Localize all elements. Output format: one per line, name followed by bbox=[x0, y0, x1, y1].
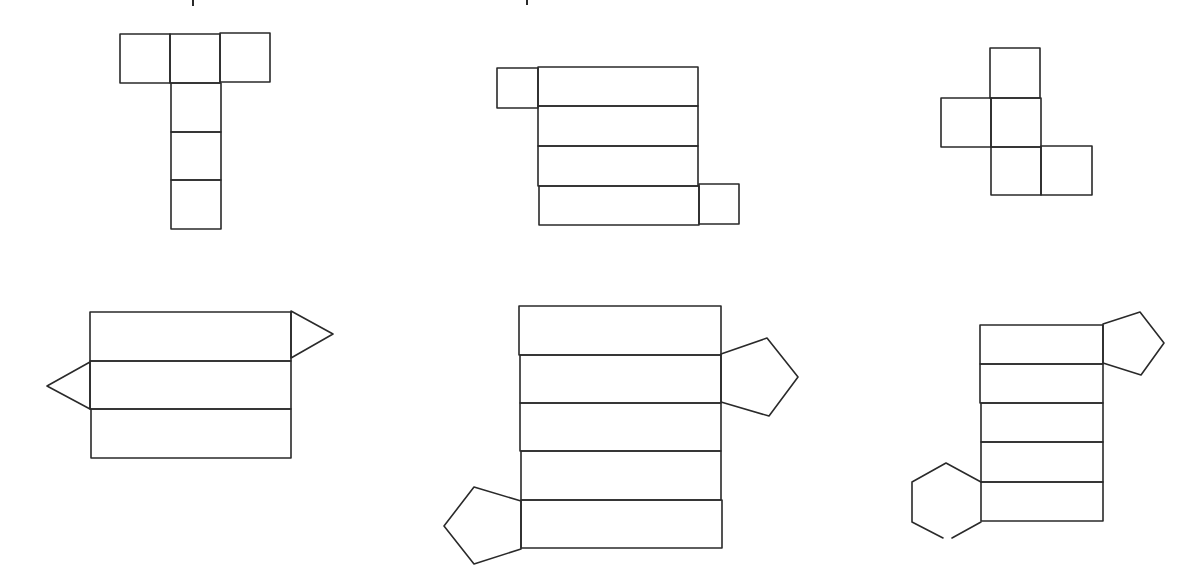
face bbox=[220, 33, 270, 82]
face bbox=[990, 48, 1040, 98]
hexagon-end-face-segment bbox=[952, 522, 981, 538]
face bbox=[991, 98, 1041, 147]
face bbox=[90, 312, 291, 361]
face bbox=[521, 451, 721, 500]
face bbox=[538, 67, 698, 106]
face bbox=[538, 146, 698, 186]
face bbox=[980, 325, 1103, 364]
face bbox=[519, 306, 721, 355]
clipped-header-text bbox=[192, 0, 528, 6]
end-face bbox=[497, 68, 538, 108]
face bbox=[171, 83, 221, 132]
net-2-rectangular-prism bbox=[497, 67, 739, 225]
face bbox=[520, 403, 721, 451]
face bbox=[120, 34, 170, 83]
face bbox=[981, 403, 1103, 442]
net-5-pentagonal-prism bbox=[444, 306, 798, 564]
pentagon-end-face bbox=[721, 338, 798, 416]
net-6-mixed-prism bbox=[912, 312, 1164, 538]
text-descender bbox=[192, 0, 194, 6]
face bbox=[991, 147, 1041, 195]
face bbox=[520, 355, 721, 403]
face bbox=[981, 482, 1103, 521]
face bbox=[981, 442, 1103, 482]
end-face bbox=[699, 184, 739, 224]
face bbox=[171, 132, 221, 180]
hexagon-end-face bbox=[912, 463, 981, 538]
nets-diagram bbox=[0, 0, 1191, 566]
face bbox=[980, 364, 1103, 403]
face bbox=[91, 409, 291, 458]
face bbox=[170, 34, 220, 83]
text-descender bbox=[526, 0, 528, 5]
face bbox=[171, 180, 221, 229]
face bbox=[539, 186, 699, 225]
net-1-cube-t-shape bbox=[120, 33, 270, 229]
triangle-end-face bbox=[291, 311, 333, 358]
face bbox=[941, 98, 991, 147]
face bbox=[90, 361, 291, 409]
pentagon-end-face bbox=[1103, 312, 1164, 375]
face bbox=[538, 106, 698, 146]
net-3-squares bbox=[941, 48, 1092, 195]
triangle-end-face bbox=[47, 362, 90, 409]
pentagon-end-face bbox=[444, 487, 521, 564]
face bbox=[521, 500, 722, 548]
face bbox=[1041, 146, 1092, 195]
net-4-triangular-prism bbox=[47, 311, 333, 458]
